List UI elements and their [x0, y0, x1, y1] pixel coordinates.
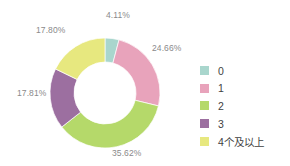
legend-label-1: 1: [218, 82, 224, 94]
chart-legend: 0 1 2 3 4个及以上: [200, 62, 288, 150]
legend-swatch-icon-4: [200, 137, 209, 146]
donut-chart: 4.11% 24.66% 35.62% 17.81% 17.80% 0 1 2 …: [0, 0, 290, 166]
legend-item-2[interactable]: 2: [200, 97, 288, 115]
legend-label-0: 0: [218, 65, 224, 77]
legend-swatch-icon-2: [200, 101, 209, 110]
legend-swatch-icon-3: [200, 119, 209, 128]
legend-item-1[interactable]: 1: [200, 80, 288, 98]
legend-item-4[interactable]: 4个及以上: [200, 132, 288, 150]
legend-swatch-icon-1: [200, 84, 209, 93]
slice-value-label-1: 24.66%: [152, 43, 181, 53]
slice-value-label-2: 35.62%: [112, 148, 141, 158]
legend-item-0[interactable]: 0: [200, 62, 288, 80]
slice-value-label-3: 17.81%: [17, 88, 46, 98]
legend-item-3[interactable]: 3: [200, 115, 288, 133]
legend-swatch-icon-0: [200, 66, 209, 75]
donut-slice-group: [50, 38, 160, 148]
legend-label-4: 4个及以上: [218, 134, 264, 149]
slice-value-label-4: 17.80%: [36, 25, 65, 35]
legend-label-2: 2: [218, 100, 224, 112]
slice-value-label-0: 4.11%: [106, 10, 130, 20]
legend-label-3: 3: [218, 118, 224, 130]
